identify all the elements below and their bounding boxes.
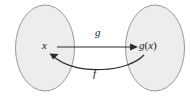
codomain-element-paren-close: ) bbox=[153, 39, 157, 51]
forward-arrow-label: g bbox=[95, 27, 101, 38]
function-mapping-diagram: x g(x) g f bbox=[0, 0, 190, 96]
domain-element-label: x bbox=[42, 40, 47, 51]
codomain-element-label: g(x) bbox=[139, 40, 157, 51]
diagram-canvas bbox=[0, 0, 190, 96]
inverse-arrow-label: f bbox=[93, 68, 96, 79]
